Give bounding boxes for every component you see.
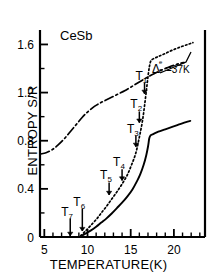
transition-label-sub-t2: 2 — [138, 104, 142, 113]
transition-label-t6: T6 — [73, 195, 85, 211]
transition-label-sub-t1: 1 — [143, 76, 147, 85]
transition-label-sub-t7: 7 — [69, 212, 73, 221]
x-tick-label: 5 — [41, 243, 48, 257]
transition-label-sub-t6: 6 — [81, 202, 85, 211]
transition-label-base-t1: T — [136, 69, 143, 83]
delta-subscript: 0 — [159, 68, 162, 74]
arrow-head-t6 — [80, 227, 85, 231]
transition-label-t5: T5 — [100, 168, 112, 184]
y-tick-label: 0 — [27, 231, 34, 245]
arrow-head-t5 — [107, 191, 112, 195]
transition-label-t1: T1 — [136, 69, 148, 85]
delta-annotation: Δe0=37K — [152, 62, 190, 76]
delta-superscript: e — [159, 59, 162, 65]
transition-label-base-t7: T — [61, 205, 68, 219]
entropy-chart-figure: 510152000.40.81.21.6 CeSb Δe0=37K TEMPER… — [0, 0, 217, 278]
transition-label-sub-t3: 3 — [134, 129, 138, 138]
x-tick-label: 10 — [81, 243, 95, 257]
delta-value: =37K — [166, 64, 190, 75]
sample-label: CeSb — [60, 28, 93, 43]
transition-label-sub-t4: 4 — [120, 162, 124, 171]
transition-label-base-t2: T — [130, 97, 137, 111]
transition-label-t4: T4 — [113, 155, 125, 171]
transition-label-t3: T3 — [127, 122, 139, 138]
arrow-head-t7 — [68, 232, 73, 236]
curve-dashdot — [41, 62, 184, 153]
x-axis-title: TEMPERATURE(K) — [0, 257, 217, 272]
arrow-head-t4 — [119, 177, 124, 181]
x-tick-label: 20 — [167, 243, 181, 257]
x-tick-label: 15 — [124, 243, 138, 257]
transition-label-base-t6: T — [73, 195, 80, 209]
transition-label-sub-t5: 5 — [107, 175, 111, 184]
transition-label-t7: T7 — [61, 205, 73, 221]
y-axis-title: ENTROPY S/R — [25, 41, 40, 221]
transition-label-t2: T2 — [130, 97, 142, 113]
